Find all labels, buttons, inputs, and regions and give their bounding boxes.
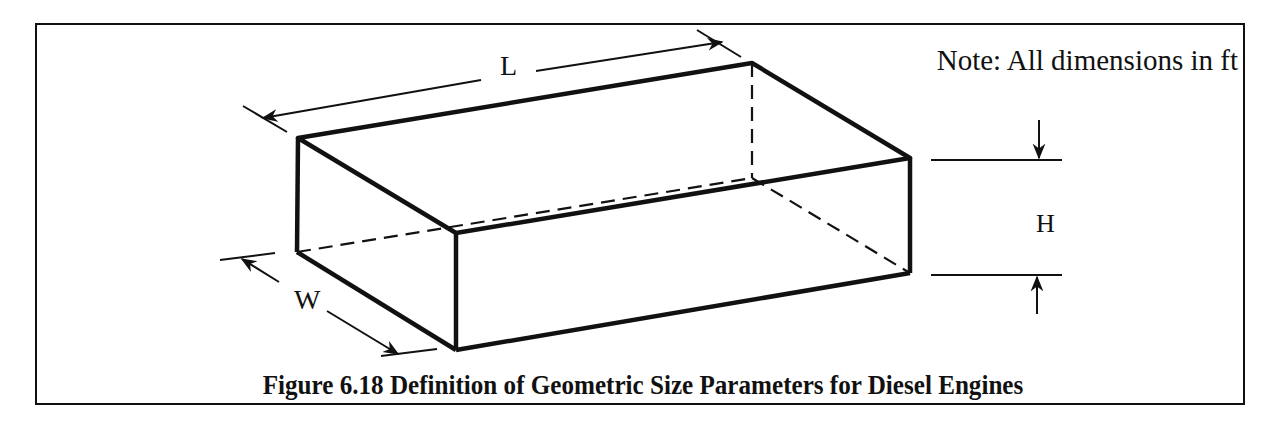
hidden-edges (297, 63, 910, 273)
width-label: W (294, 286, 320, 314)
length-dimension (243, 30, 741, 132)
length-label: L (500, 52, 517, 80)
visible-edges (297, 63, 910, 350)
figure-caption: Figure 6.18 Definition of Geometric Size… (45, 372, 1241, 399)
height-label: H (1036, 211, 1055, 237)
units-note: Note: All dimensions in ft (937, 46, 1238, 75)
width-dimension (220, 253, 437, 356)
